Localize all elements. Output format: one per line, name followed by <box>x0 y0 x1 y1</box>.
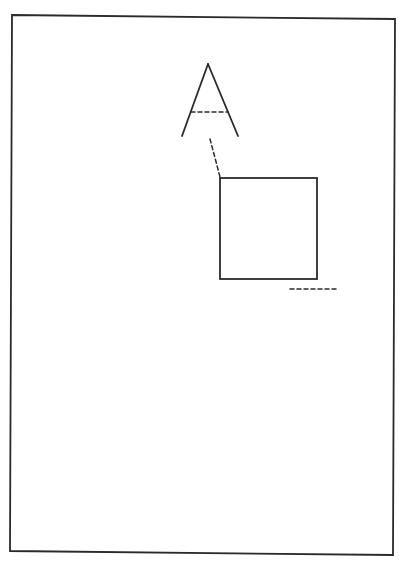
square <box>220 178 317 279</box>
connector-line <box>210 139 220 177</box>
letter-a <box>182 64 238 136</box>
diagram-canvas <box>0 0 399 564</box>
letter-a-right-stroke <box>208 64 238 136</box>
letter-a-left-stroke <box>182 64 208 136</box>
page-frame <box>10 15 395 555</box>
